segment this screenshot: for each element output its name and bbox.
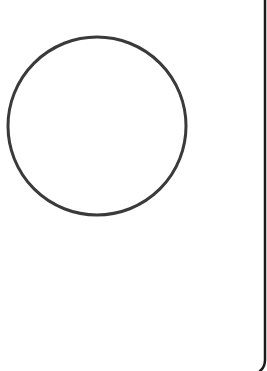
circle-shape [8,37,186,215]
right-edge-line [260,0,265,371]
drawing-canvas [0,0,267,371]
drawing-svg [0,0,267,371]
